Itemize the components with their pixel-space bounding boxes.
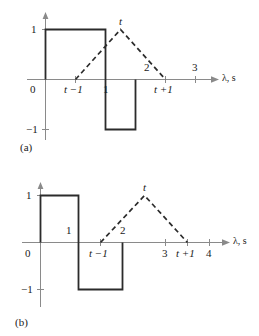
panel-b-ytick-0: 0 <box>25 248 31 259</box>
panel-a-axis-title: λ, s <box>222 73 236 83</box>
panel-a-xtick-2: 2 <box>144 62 150 73</box>
panel-b-xtick-t-plus-1: t +1 <box>176 248 195 259</box>
panel-b-xtick-t-minus-1: t −1 <box>89 248 108 259</box>
panel-b-caption: (b) <box>15 317 28 328</box>
convolution-figure: 1 0 −1 t −1 1 2 t +1 3 t λ, s (a) <box>0 0 259 336</box>
panel-b: 1 0 −1 1 t −1 2 3 t +1 4 t λ, s (b) <box>0 162 259 336</box>
panel-a-plot <box>0 0 259 162</box>
panel-b-ytick-neg1: −1 <box>21 284 33 295</box>
panel-a-xtick-3: 3 <box>192 62 198 73</box>
panel-a-caption: (a) <box>20 142 32 153</box>
triangular-pulse-dashed <box>76 30 166 80</box>
panel-b-xtick-3: 3 <box>162 248 168 259</box>
panel-b-ytick-1: 1 <box>26 190 32 201</box>
panel-a-peak-label: t <box>119 16 122 27</box>
panel-a-ytick-0: 0 <box>30 84 36 95</box>
panel-a-xtick-t-minus-1: t −1 <box>64 84 83 95</box>
x-axis-arrowhead <box>211 76 219 82</box>
panel-a-ytick-1: 1 <box>31 24 37 35</box>
panel-a-ytick-neg1: −1 <box>26 124 38 135</box>
panel-a-xtick-1: 1 <box>103 84 109 95</box>
panel-b-xtick-1: 1 <box>66 225 72 236</box>
panel-b-axis-title: λ, s <box>233 236 247 246</box>
panel-a-xtick-t-plus-1: t +1 <box>154 84 173 95</box>
y-axis-arrowhead <box>43 12 49 19</box>
triangular-pulse-dashed <box>101 196 188 243</box>
panel-a: 1 0 −1 t −1 1 2 t +1 3 t λ, s (a) <box>0 0 259 162</box>
panel-b-plot <box>0 162 259 336</box>
panel-b-xtick-2: 2 <box>120 225 126 236</box>
panel-b-xtick-4: 4 <box>206 248 212 259</box>
x-axis-arrowhead <box>222 239 230 245</box>
y-axis-arrowhead <box>38 182 44 189</box>
panel-b-peak-label: t <box>143 182 146 193</box>
